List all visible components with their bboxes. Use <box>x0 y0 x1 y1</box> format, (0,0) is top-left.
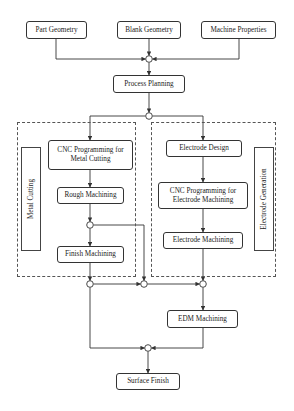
junction-middle <box>141 281 148 288</box>
junction-inputs <box>146 56 153 63</box>
metal-cutting-label-box: Metal Cutting <box>21 147 41 251</box>
electrode-generation-label-box: Electrode Generation <box>254 147 274 251</box>
finish-machining-node: Finish Machining <box>57 246 124 263</box>
junction-split <box>146 113 153 120</box>
blank-geometry-node: Blank Geometry <box>117 21 181 39</box>
rough-machining-node: Rough Machining <box>57 187 124 204</box>
electrode-machining-node: Electrode Machining <box>163 232 243 249</box>
cnc-metal-cutting-node: CNC Programming for Metal Cutting <box>48 140 133 170</box>
junction-final <box>145 345 152 352</box>
junction-finish <box>87 281 94 288</box>
surface-finish-node: Surface Finish <box>116 373 180 390</box>
process-planning-node: Process Planning <box>113 75 185 93</box>
cnc-electrode-machining-node: CNC Programming for Electrode Machining <box>158 182 248 209</box>
electrode-design-node: Electrode Design <box>166 140 242 157</box>
edm-machining-node: EDM Machining <box>167 310 238 328</box>
junction-electrode <box>200 281 207 288</box>
part-geometry-node: Part Geometry <box>26 21 87 39</box>
machine-properties-node: Machine Properties <box>201 21 276 39</box>
metal-cutting-label: Metal Cutting <box>27 179 35 219</box>
electrode-generation-label: Electrode Generation <box>260 168 268 229</box>
